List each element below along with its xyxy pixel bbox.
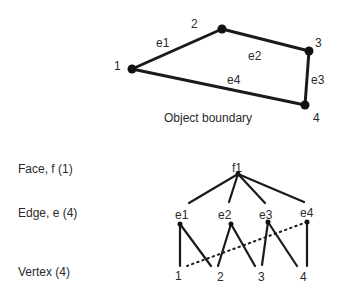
level-label-edge: Edge, e (4) [18, 206, 77, 220]
boundary-representation-diagram: 1 2 3 4 e1 e2 e3 e4 Object boundary Face… [0, 0, 341, 304]
level-label-vertex: Vertex (4) [18, 265, 70, 279]
boundary-edge-label-e4: e4 [227, 73, 241, 87]
link-f1-e3 [238, 174, 265, 203]
boundary-caption: Object boundary [164, 111, 252, 125]
link-e1-v2 [180, 224, 211, 266]
vertex-node-label-3: 3 [258, 270, 265, 284]
boundary-edge-e4 [132, 69, 305, 105]
boundary-vertex-label-4: 4 [313, 111, 320, 125]
boundary-edge-e2 [222, 29, 309, 51]
boundary-vertex-4 [301, 101, 310, 110]
edge-node-e4 [305, 220, 310, 225]
vertex-node-label-4: 4 [300, 270, 307, 284]
topology-hierarchy: Face, f (1) Edge, e (4) Vertex (4) f1 e1… [18, 161, 314, 284]
boundary-edge-e1 [132, 29, 222, 69]
boundary-vertex-1 [128, 65, 137, 74]
link-f1-e4 [238, 174, 304, 202]
boundary-vertex-label-3: 3 [315, 36, 322, 50]
level-label-face: Face, f (1) [18, 162, 73, 176]
boundary-vertex-3 [305, 47, 314, 56]
boundary-edge-label-e1: e1 [156, 36, 170, 50]
vertex-node-label-2: 2 [217, 270, 224, 284]
edge-node-label-e1: e1 [175, 208, 189, 222]
boundary-vertex-label-2: 2 [191, 17, 198, 31]
edge-node-label-e4: e4 [300, 206, 314, 220]
link-e2-v2 [218, 224, 231, 266]
edge-node-e1 [178, 222, 183, 227]
boundary-edge-e3 [305, 51, 309, 105]
boundary-vertex-2 [218, 25, 227, 34]
edge-node-e2 [229, 222, 234, 227]
boundary-edge-label-e3: e3 [311, 73, 325, 87]
edge-node-e3 [266, 220, 271, 225]
object-boundary-figure: 1 2 3 4 e1 e2 e3 e4 Object boundary [114, 17, 325, 125]
link-e3-v4 [268, 222, 297, 266]
edge-node-label-e2: e2 [218, 208, 232, 222]
link-e3-v3 [262, 222, 268, 265]
boundary-edge-label-e2: e2 [248, 49, 262, 63]
vertex-node-label-1: 1 [175, 269, 182, 283]
boundary-vertex-label-1: 1 [114, 59, 121, 73]
edge-node-label-e3: e3 [259, 208, 273, 222]
